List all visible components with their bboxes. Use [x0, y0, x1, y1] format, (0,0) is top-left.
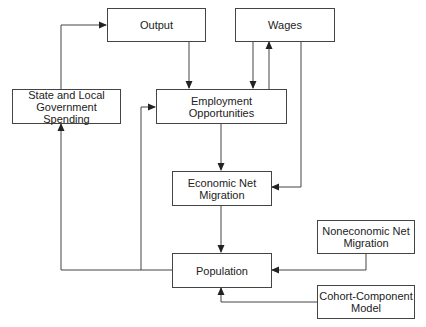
- node-wages: Wages: [235, 8, 335, 42]
- node-population: Population: [172, 253, 272, 288]
- edge-population-to-employment: [141, 107, 155, 270]
- edge-population-to-govt: [61, 124, 172, 270]
- node-employment: Employment Opportunities: [156, 89, 287, 124]
- edge-govt-to-output: [61, 25, 106, 89]
- edge-cohort-to-population: [221, 288, 317, 302]
- node-econ-migration: Economic Net Migration: [172, 171, 272, 206]
- node-cohort-model: Cohort-Component Model: [317, 285, 415, 319]
- edge-noneconomic-to-population: [272, 253, 366, 270]
- node-govt-spending: State and Local Government Spending: [12, 89, 121, 124]
- node-noneconomic-migration: Noneconomic Net Migration: [317, 220, 415, 254]
- node-output: Output: [107, 8, 206, 42]
